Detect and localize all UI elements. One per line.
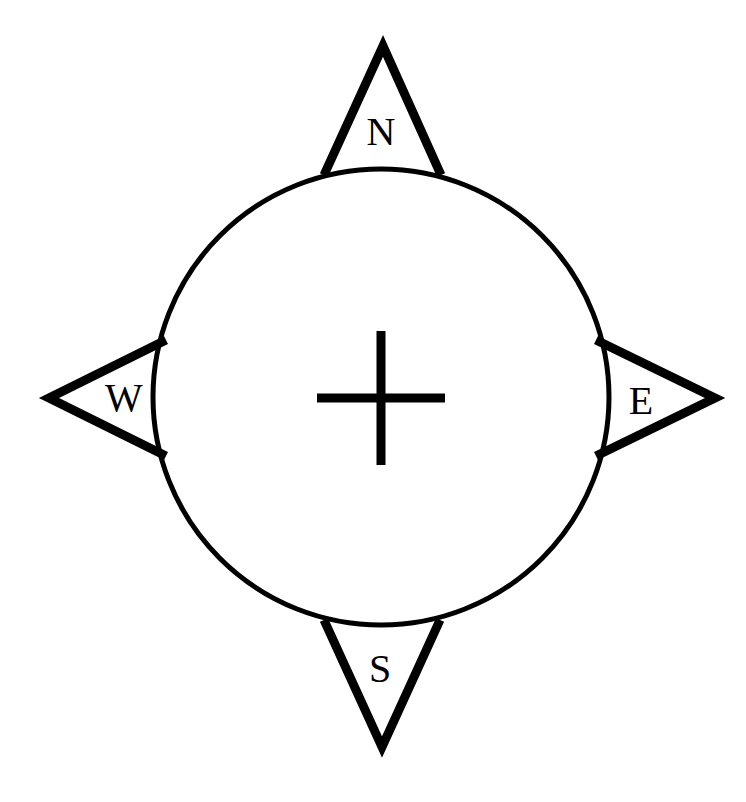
cardinal-label-south: S [369, 646, 391, 691]
cardinal-label-east: E [629, 378, 653, 423]
east-point-legs [596, 340, 715, 456]
compass-rose-diagram: N E S W [0, 0, 746, 802]
compass-rose-canvas: N E S W [0, 0, 746, 802]
compass-point-east [596, 340, 715, 456]
cardinal-label-west: W [105, 375, 143, 420]
cardinal-label-north: N [367, 109, 396, 154]
compass-center-cross [317, 331, 445, 465]
